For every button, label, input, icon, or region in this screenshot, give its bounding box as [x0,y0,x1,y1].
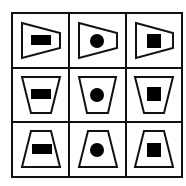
square-shape [147,87,161,101]
circle-shape [90,143,104,157]
puzzle-grid [0,0,186,186]
rectangle-shape [32,144,52,154]
circle-shape [90,34,104,48]
circle-shape [90,88,104,102]
rectangle-shape [31,35,51,45]
square-shape [147,143,161,157]
square-shape [147,34,161,48]
rectangle-shape [31,89,51,99]
